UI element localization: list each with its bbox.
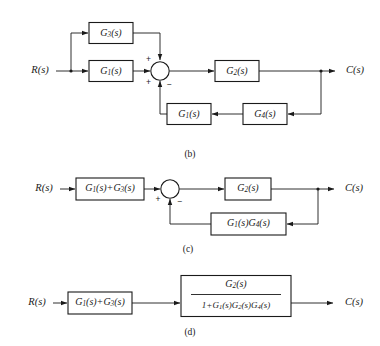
- block-g2-plant-c-label: G2(s): [237, 182, 259, 194]
- panel-d-input-label: R(s): [27, 296, 46, 308]
- panel-b-caption: (b): [184, 149, 195, 160]
- panel-c-wire-feedback-to-sum: [170, 199, 211, 224]
- panel-c-wire-tap-to-feedback: [287, 189, 318, 224]
- panel-c-sign-plus: +: [156, 194, 161, 204]
- block-closed-loop-tf-denominator: 1+G1(s)G2(s)G4(s): [202, 300, 270, 310]
- panel-b-wire-tap-to-g4: [288, 71, 321, 114]
- panel-b-sign-plus-bottom: +: [146, 77, 151, 87]
- block-diagram-figure: R(s) G3(s) G1(s): [0, 0, 380, 346]
- panel-c-summing-junction: [161, 180, 179, 198]
- panel-c: R(s) G1(s)+G3(s) + − G2(s) C(s): [34, 178, 363, 255]
- block-g4-feedback-label: G4(s): [254, 108, 276, 120]
- panel-d-output-label: C(s): [345, 296, 364, 308]
- panel-d: R(s) G1(s)+G3(s) G2(s) 1+G1(s)G2(s)G4(s)…: [27, 276, 363, 339]
- panel-b-sign-plus-top: +: [146, 54, 151, 64]
- block-g3-label: G3(s): [100, 27, 122, 39]
- panel-c-output-label: C(s): [345, 182, 364, 194]
- panel-b: R(s) G3(s) G1(s): [30, 23, 364, 161]
- panel-b-wire-g1fb-to-sum: [160, 81, 167, 114]
- panel-b-input-label: R(s): [30, 64, 49, 76]
- block-closed-loop-tf-numerator: G2(s): [225, 278, 247, 290]
- panel-c-caption: (c): [183, 244, 194, 255]
- panel-b-output-label: C(s): [346, 64, 365, 76]
- block-g1g4-feedback-label: G1(s)G4(s): [227, 217, 270, 229]
- block-g1-forward-label: G1(s): [100, 65, 122, 77]
- block-g1-feedback-label: G1(s): [178, 108, 200, 120]
- panel-c-input-label: R(s): [34, 182, 53, 194]
- panel-b-summing-junction: [151, 62, 169, 80]
- panel-b-sign-minus: −: [167, 79, 172, 89]
- block-g2-plant-label: G2(s): [226, 65, 248, 77]
- diagram-canvas: R(s) G3(s) G1(s): [0, 0, 380, 346]
- panel-d-caption: (d): [184, 327, 195, 338]
- panel-c-sign-minus: −: [178, 196, 183, 206]
